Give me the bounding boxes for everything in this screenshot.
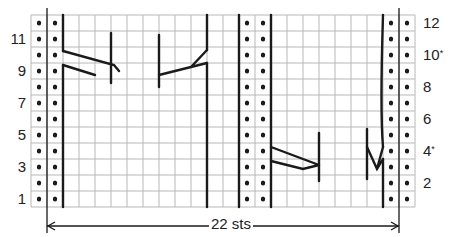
stitch-count-label: 22 sts <box>209 215 253 232</box>
row-note-mark: * <box>431 144 435 154</box>
row-number: 2 <box>423 174 431 191</box>
row-label-7: 7 <box>4 95 26 111</box>
row-number: 12 <box>423 14 440 31</box>
row-number: 8 <box>423 78 431 95</box>
row-label-4: 4* <box>423 143 435 159</box>
row-label-3: 3 <box>4 159 26 175</box>
row-label-5: 5 <box>4 127 26 143</box>
row-number: 10 <box>423 46 440 63</box>
row-label-2: 2 <box>423 175 431 191</box>
row-label-6: 6 <box>423 111 431 127</box>
row-note-mark: * <box>440 48 444 58</box>
row-label-10: 10* <box>423 47 443 63</box>
row-label-1: 1 <box>4 191 26 207</box>
row-number: 6 <box>423 110 431 127</box>
knitting-chart <box>0 0 451 237</box>
row-label-11: 11 <box>4 31 26 47</box>
row-label-12: 12 <box>423 15 440 31</box>
row-label-9: 9 <box>4 63 26 79</box>
row-label-8: 8 <box>423 79 431 95</box>
chart-grid <box>31 15 415 207</box>
